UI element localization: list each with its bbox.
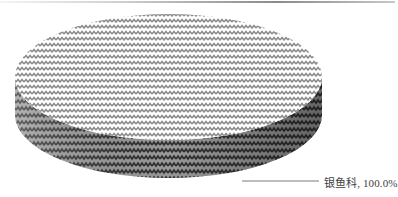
pie-slice-yinyuke[interactable] xyxy=(15,14,322,140)
data-label-yinyuke: 银鱼科, 100.0% xyxy=(324,174,398,190)
